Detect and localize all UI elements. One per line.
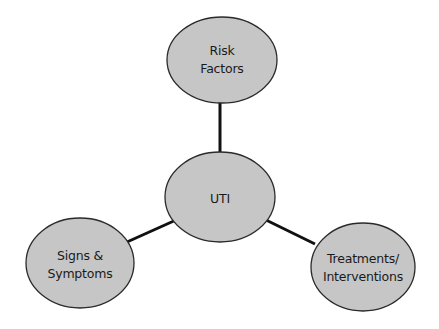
node-uti-label: UTI xyxy=(210,191,230,206)
node-risk-factors: Risk Factors xyxy=(167,17,277,103)
node-treatments-interventions-label-line2: Interventions xyxy=(323,269,403,284)
node-signs-symptoms: Signs & Symptoms xyxy=(26,218,134,308)
edge-center-to-treatments xyxy=(266,220,315,244)
node-risk-factors-shape xyxy=(167,17,277,103)
edge-center-to-signs-symptoms xyxy=(127,220,176,242)
node-signs-symptoms-label-line2: Symptoms xyxy=(47,266,112,281)
node-treatments-interventions-shape xyxy=(311,223,415,311)
node-risk-factors-label-line2: Factors xyxy=(200,61,243,76)
node-signs-symptoms-label-line1: Signs & xyxy=(57,248,104,263)
node-uti: UTI xyxy=(165,152,275,242)
node-treatments-interventions: Treatments/ Interventions xyxy=(311,223,415,311)
node-signs-symptoms-shape xyxy=(26,218,134,308)
node-risk-factors-label-line1: Risk xyxy=(209,43,235,58)
concept-map: Risk Factors UTI Signs & Symptoms Treatm… xyxy=(0,0,439,329)
node-treatments-interventions-label-line1: Treatments/ xyxy=(326,251,400,266)
